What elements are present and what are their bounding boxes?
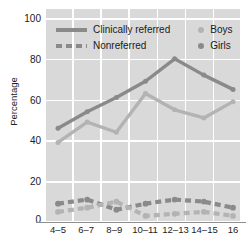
data-point bbox=[84, 197, 90, 203]
data-point bbox=[201, 199, 207, 205]
data-point bbox=[231, 99, 236, 104]
data-point bbox=[172, 211, 178, 217]
legend-linestyle-group: Clinically referred Nonreferred bbox=[56, 24, 170, 51]
data-point bbox=[84, 205, 90, 211]
legend-label: Nonreferred bbox=[93, 40, 146, 51]
data-point bbox=[85, 109, 90, 114]
solid-line-swatch-icon bbox=[56, 28, 87, 32]
legend-marker-group: Boys Girls bbox=[198, 24, 232, 51]
data-point bbox=[231, 87, 236, 92]
chart-container: Percentage 100 80 60 40 20 0 Clini bbox=[0, 0, 251, 238]
x-tick-label: 8–9 bbox=[106, 224, 122, 235]
legend-label: Girls bbox=[210, 40, 231, 51]
chart-legend: Clinically referred Nonreferred Boys Gir… bbox=[56, 24, 232, 51]
data-point bbox=[201, 209, 207, 215]
data-point bbox=[172, 56, 177, 61]
data-point bbox=[114, 130, 119, 135]
dashed-line-swatch-icon bbox=[56, 44, 87, 48]
data-point bbox=[143, 79, 148, 84]
data-point bbox=[143, 213, 149, 219]
data-point bbox=[113, 199, 119, 205]
data-point bbox=[230, 213, 236, 219]
x-tick-label: 4–5 bbox=[50, 224, 66, 235]
data-point bbox=[172, 197, 178, 203]
x-tick-label: 16 bbox=[228, 224, 239, 235]
data-point bbox=[113, 207, 119, 213]
data-point bbox=[172, 107, 177, 112]
data-point bbox=[85, 120, 90, 125]
x-tick-label: 10–11 bbox=[132, 224, 158, 235]
data-point bbox=[201, 115, 206, 120]
data-point bbox=[143, 201, 149, 207]
data-point bbox=[230, 205, 236, 211]
data-point bbox=[143, 91, 148, 96]
legend-label: Clinically referred bbox=[93, 24, 170, 35]
data-point bbox=[55, 209, 61, 215]
girls-marker-dot-icon bbox=[198, 43, 204, 49]
legend-item-girls: Girls bbox=[198, 40, 232, 51]
data-point bbox=[56, 140, 61, 145]
legend-label: Boys bbox=[210, 24, 232, 35]
x-tick-label: 14–15 bbox=[191, 224, 217, 235]
data-point bbox=[114, 95, 119, 100]
x-tick-label: 12–13 bbox=[162, 224, 188, 235]
x-axis-line bbox=[36, 222, 246, 223]
boys-marker-dot-icon bbox=[198, 27, 204, 33]
x-tick-label: 6–7 bbox=[78, 224, 94, 235]
data-point bbox=[56, 126, 61, 131]
legend-item-clinically-referred: Clinically referred bbox=[56, 24, 170, 35]
series-line bbox=[58, 93, 233, 142]
data-point bbox=[201, 73, 206, 78]
legend-item-nonreferred: Nonreferred bbox=[56, 40, 170, 51]
legend-item-boys: Boys bbox=[198, 24, 232, 35]
data-point bbox=[55, 201, 61, 207]
